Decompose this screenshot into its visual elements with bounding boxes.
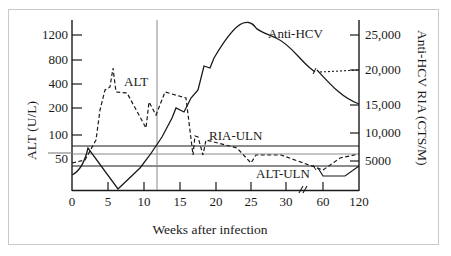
x-ticks bbox=[108, 182, 323, 190]
chart: 1200 800 400 200 100 50 25,000 20,000 15… bbox=[0, 0, 451, 256]
alt-uln-label: ALT-ULN bbox=[256, 166, 311, 181]
svg-text:5: 5 bbox=[105, 194, 112, 209]
svg-text:25,000: 25,000 bbox=[365, 27, 401, 42]
ria-uln-label: RIA-ULN bbox=[209, 128, 263, 143]
anti-hcv-series bbox=[72, 22, 315, 189]
svg-text:400: 400 bbox=[49, 76, 69, 91]
alt-series bbox=[72, 68, 359, 170]
svg-text:200: 200 bbox=[49, 100, 69, 115]
svg-text:0: 0 bbox=[69, 194, 76, 209]
svg-text:800: 800 bbox=[49, 52, 69, 67]
anti-hcv-low-segment bbox=[318, 166, 359, 176]
svg-text:15: 15 bbox=[174, 194, 187, 209]
y-left-title: ALT (U/L) bbox=[24, 101, 39, 160]
y-right-title: Anti-HCV RIA (CTS/M) bbox=[415, 30, 430, 166]
svg-text:60: 60 bbox=[317, 194, 330, 209]
svg-text:10: 10 bbox=[138, 194, 151, 209]
svg-text:20: 20 bbox=[210, 194, 223, 209]
svg-text:120: 120 bbox=[349, 194, 369, 209]
x-title: Weeks after infection bbox=[152, 222, 267, 237]
left-tick-labels: 1200 800 400 200 100 50 bbox=[42, 27, 68, 166]
anti-hcv-label: Anti-HCV bbox=[268, 26, 324, 41]
svg-text:10,000: 10,000 bbox=[365, 125, 401, 140]
anti-hcv-dotted-series bbox=[320, 70, 359, 72]
svg-text:1200: 1200 bbox=[42, 27, 68, 42]
alt-label: ALT bbox=[124, 74, 148, 89]
right-tick-labels: 25,000 20,000 15,000 10,000 5000 bbox=[365, 27, 401, 168]
svg-text:5000: 5000 bbox=[365, 153, 391, 168]
svg-text:50: 50 bbox=[55, 151, 68, 166]
svg-text:100: 100 bbox=[49, 127, 69, 142]
svg-text:25: 25 bbox=[245, 194, 258, 209]
svg-text:20,000: 20,000 bbox=[365, 62, 401, 77]
svg-text:15,000: 15,000 bbox=[365, 97, 401, 112]
x-tick-labels: 0 5 10 15 20 25 30 60 120 bbox=[69, 194, 369, 209]
anti-hcv-late-series bbox=[317, 70, 359, 104]
right-ticks bbox=[350, 35, 359, 161]
svg-text:30: 30 bbox=[280, 194, 293, 209]
x-axis-break-icon bbox=[299, 186, 307, 193]
